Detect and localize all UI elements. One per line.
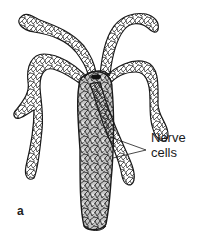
hydra-illustration xyxy=(0,0,197,238)
panel-label: a xyxy=(17,204,24,218)
tentacle-left xyxy=(14,54,86,179)
nerve-cells-label-line2: cells xyxy=(151,146,177,160)
nerve-cells-label-line1: Nerve xyxy=(151,131,186,145)
